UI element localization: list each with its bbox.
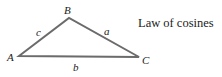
side-label-a: a xyxy=(104,25,110,37)
vertex-label-a: A xyxy=(6,51,14,63)
side-label-c: c xyxy=(36,26,41,38)
diagram-title: Law of cosines xyxy=(138,16,214,31)
vertex-label-b: B xyxy=(64,4,71,16)
triangle-diagram: B A C c a b xyxy=(0,0,222,77)
vertex-label-c: C xyxy=(142,54,150,66)
side-label-b: b xyxy=(73,61,79,73)
